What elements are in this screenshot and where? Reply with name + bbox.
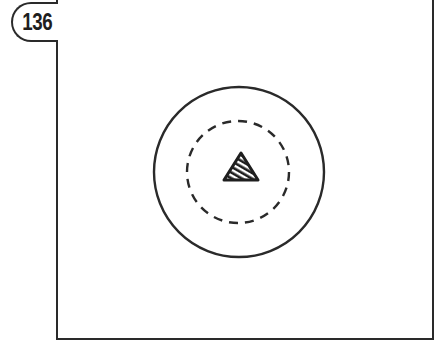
hatched-triangle-icon [224, 153, 258, 180]
diagram-canvas [0, 0, 442, 351]
